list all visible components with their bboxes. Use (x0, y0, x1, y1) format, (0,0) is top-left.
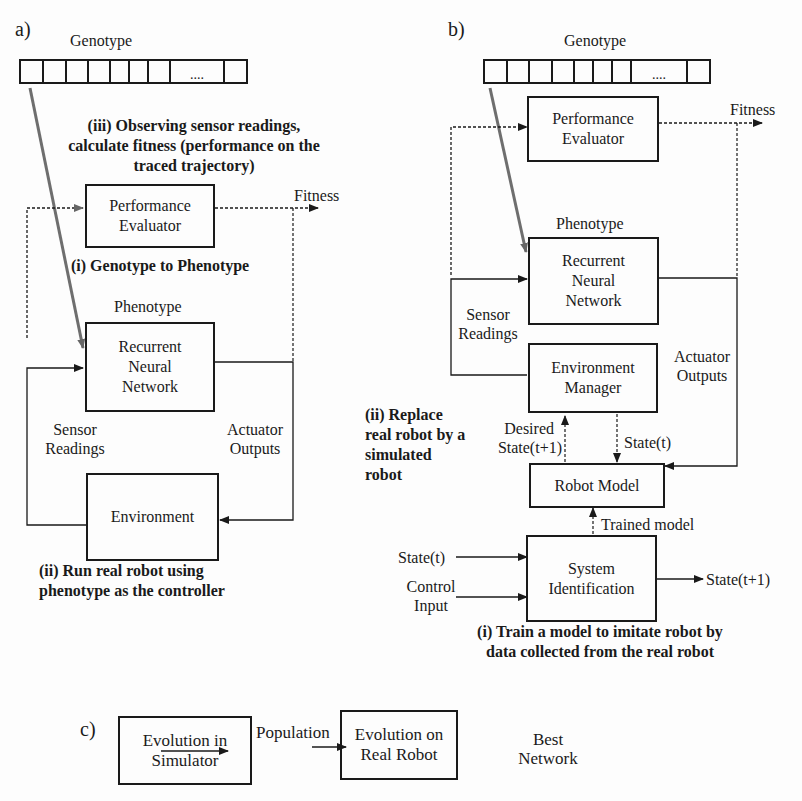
box-text: Evaluator (119, 216, 181, 236)
rnn-box: Recurrent Neural Network (528, 237, 659, 325)
label-line: Actuator (220, 420, 290, 439)
caption-line: simulated (365, 445, 465, 465)
gene-ellipsis: .... (632, 61, 688, 82)
box-text: Evaluator (562, 129, 624, 149)
state-t-input-label: State(t) (398, 548, 445, 567)
performance-evaluator-box: Performance Evaluator (85, 184, 215, 248)
box-text: Robot Model (555, 476, 640, 496)
gene-cell (613, 61, 632, 82)
environment-manager-box: Environment Manager (528, 343, 658, 413)
robot-model-box: Robot Model (529, 463, 665, 508)
label-line: Network (508, 749, 588, 768)
panel-a-label: a) (15, 20, 31, 39)
environment-box: Environment (86, 473, 219, 561)
caption-line: (ii) Run real robot using (39, 561, 225, 581)
caption-line: (ii) Replace (365, 405, 465, 425)
caption-line: data collected from the real robot (440, 642, 760, 662)
gene-cell (530, 61, 553, 82)
box-text: Neural (128, 357, 172, 377)
box-text: Environment (111, 507, 195, 527)
actuator-outputs-label: Actuator Outputs (667, 347, 737, 385)
box-text: Performance (109, 196, 191, 216)
system-identification-box: System Identification (526, 535, 657, 622)
box-text: Network (566, 291, 622, 311)
gene-cell (67, 61, 90, 82)
fitness-label: Fitness (294, 186, 339, 205)
caption-line: traced trajectory) (44, 156, 344, 176)
step-i-caption: (i) Genotype to Phenotype (71, 256, 249, 276)
panel-b-label: b) (448, 20, 465, 39)
box-text: Performance (552, 109, 634, 129)
box-text: Neural (572, 271, 616, 291)
sensor-readings-label: Sensor Readings (38, 420, 112, 458)
sensor-readings-label: Sensor Readings (451, 305, 525, 343)
caption-line: (iii) Observing sensor readings, (44, 116, 344, 136)
state-t-label: State(t) (624, 433, 671, 452)
box-text: Identification (548, 579, 634, 599)
gene-cell (594, 61, 613, 82)
gene-cell (508, 61, 530, 82)
step-ii-caption: (ii) Run real robot using phenotype as t… (39, 561, 225, 601)
gene-cell (485, 61, 508, 82)
population-label: Population (256, 723, 330, 742)
desired-state-label: Desired State(t+1) (496, 419, 562, 457)
genotype-label: Genotype (70, 31, 132, 50)
box-text: Evolution on (355, 725, 443, 745)
step-ii-caption: (ii) Replace real robot by a simulated r… (365, 405, 465, 485)
fitness-label: Fitness (730, 100, 775, 119)
label-line: Desired (496, 419, 562, 438)
label-line: Readings (38, 439, 112, 458)
caption-line: (i) Train a model to imitate robot by (440, 622, 760, 642)
gene-cell (688, 61, 709, 82)
gene-cell (44, 61, 67, 82)
gene-cell (553, 61, 575, 82)
label-line: Best (508, 730, 588, 749)
best-network-label: Best Network (508, 730, 588, 768)
label-line: Outputs (667, 366, 737, 385)
actuator-outputs-label: Actuator Outputs (220, 420, 290, 458)
trained-model-label: Trained model (601, 515, 694, 534)
label-line: Actuator (667, 347, 737, 366)
figure-canvas: a) Genotype .... (iii) Observing sensor … (0, 0, 802, 801)
gene-cell (130, 61, 149, 82)
genotype-array: .... (19, 59, 248, 84)
phenotype-label: Phenotype (114, 297, 182, 316)
phenotype-label: Phenotype (556, 214, 624, 233)
label-line: Control (400, 577, 462, 596)
control-input-label: Control Input (400, 577, 462, 615)
genotype-array: .... (483, 59, 711, 84)
gene-cell (21, 61, 44, 82)
gene-cell (149, 61, 171, 82)
genotype-label: Genotype (564, 31, 626, 50)
label-line: Sensor (451, 305, 525, 324)
box-text: Real Robot (361, 745, 438, 765)
label-line: Input (400, 596, 462, 615)
box-text: Simulator (151, 751, 218, 771)
evolution-real-robot-box: Evolution on Real Robot (340, 710, 458, 780)
gene-cell (111, 61, 130, 82)
state-t1-output-label: State(t+1) (706, 570, 770, 589)
label-line: Sensor (38, 420, 112, 439)
box-text: Recurrent (562, 251, 625, 271)
gene-cell (575, 61, 594, 82)
box-text: Evolution in (143, 731, 228, 751)
evolution-simulator-box: Evolution in Simulator (118, 716, 252, 785)
performance-evaluator-box: Performance Evaluator (527, 96, 659, 162)
caption-line: robot (365, 465, 465, 485)
rnn-box: Recurrent Neural Network (85, 322, 215, 412)
gene-cell (89, 61, 111, 82)
label-line: Outputs (220, 439, 290, 458)
caption-line: real robot by a (365, 425, 465, 445)
box-text: Manager (565, 378, 622, 398)
gene-ellipsis: .... (171, 61, 226, 82)
label-line: State(t+1) (496, 438, 562, 457)
label-line: Readings (451, 324, 525, 343)
box-text: Recurrent (118, 337, 181, 357)
box-text: Network (122, 377, 178, 397)
caption-line: calculate fitness (performance on the (44, 136, 344, 156)
step-iii-caption: (iii) Observing sensor readings, calcula… (44, 116, 344, 176)
caption-line: phenotype as the controller (39, 581, 225, 601)
box-text: Environment (551, 358, 635, 378)
panel-c-label: c) (80, 720, 96, 739)
step-i-caption: (i) Train a model to imitate robot by da… (440, 622, 760, 662)
